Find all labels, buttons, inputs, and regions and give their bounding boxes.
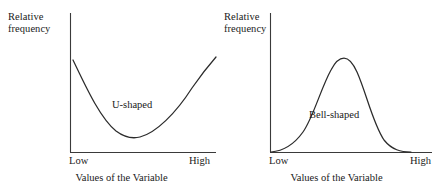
x-axis-title: Values of the Variable: [221, 172, 442, 184]
u-shaped-plot: [0, 0, 221, 192]
bell-shaped-plot: [221, 0, 442, 192]
chart-panel-u-shaped: Relative frequency U-shaped Low High Val…: [0, 0, 221, 192]
x-tick-high: High: [410, 155, 431, 167]
chart-panel-bell-shaped: Relative frequency Bell-shaped Low High …: [221, 0, 442, 192]
curve-annotation-u-shaped: U-shaped: [112, 99, 152, 111]
x-axis-title: Values of the Variable: [0, 172, 221, 184]
x-tick-low: Low: [69, 155, 88, 167]
bell-shaped-curve: [271, 58, 411, 152]
x-tick-high: High: [189, 155, 210, 167]
figure-canvas: Relative frequency U-shaped Low High Val…: [0, 0, 442, 192]
x-tick-low: Low: [269, 155, 288, 167]
curve-annotation-bell-shaped: Bell-shaped: [309, 109, 359, 121]
u-shaped-curve: [73, 57, 216, 138]
